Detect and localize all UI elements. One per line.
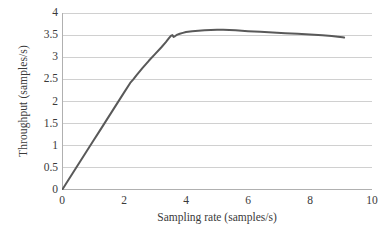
plot-area: [62, 13, 372, 190]
data-series-line: [62, 30, 344, 190]
y-axis-title: Throughput (samples/s): [14, 6, 32, 196]
gridlines: [62, 13, 372, 190]
y-tick-label-2.5: 2.5: [34, 73, 58, 84]
y-tick-label-4: 4: [34, 7, 58, 18]
x-axis-title: Sampling rate (samples/s): [62, 210, 372, 224]
y-tick-label-2: 2: [34, 96, 58, 107]
x-tick-label-8: 8: [290, 193, 330, 207]
throughput-vs-sampling-rate-chart: Throughput (samples/s) 00.511.522.533.54…: [0, 0, 392, 236]
y-tick-label-1: 1: [34, 140, 58, 151]
x-axis-tick-labels: 0246810: [0, 193, 392, 209]
y-tick-label-1.5: 1.5: [34, 118, 58, 129]
y-tick-label-3.5: 3.5: [34, 29, 58, 40]
x-tick-label-2: 2: [104, 193, 144, 207]
x-tick-label-4: 4: [166, 193, 206, 207]
y-tick-label-3: 3: [34, 51, 58, 62]
plot-svg: [62, 13, 372, 190]
x-tick-label-10: 10: [352, 193, 392, 207]
y-tick-label-0.5: 0.5: [34, 162, 58, 173]
x-tick-label-6: 6: [228, 193, 268, 207]
x-tick-label-0: 0: [42, 193, 82, 207]
